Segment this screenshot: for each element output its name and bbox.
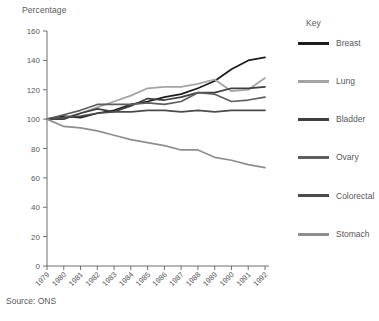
legend-swatch-icon: [298, 118, 329, 121]
x-tick-label: 1992: [251, 270, 269, 288]
y-tick-label: 100: [27, 115, 41, 124]
y-tick-label: 60: [31, 174, 40, 183]
legend-item-label: Stomach: [336, 230, 370, 239]
legend-item-bladder[interactable]: Bladder: [298, 113, 365, 125]
x-tick-label: 1982: [84, 270, 102, 288]
x-tick-label: 1985: [134, 270, 152, 288]
legend-swatch-icon: [298, 233, 329, 236]
x-tick-label: 1986: [151, 270, 169, 288]
legend-item-label: Colorectal: [336, 192, 374, 201]
legend-swatch-icon: [298, 156, 329, 159]
y-tick-label: 80: [31, 145, 40, 154]
x-tick-label: 1979: [33, 270, 51, 288]
legend-item-label: Lung: [336, 77, 355, 86]
y-axis-tick-labels: 020406080100120140160: [27, 27, 41, 271]
x-tick-label: 1990: [218, 270, 236, 288]
x-tick-label: 1987: [167, 270, 185, 288]
source-note: Source: ONS: [6, 296, 56, 306]
y-tick-label: 160: [27, 27, 41, 36]
x-tick-label: 1988: [184, 270, 202, 288]
legend-swatch-icon: [298, 194, 329, 197]
x-tick-label: 1984: [117, 270, 135, 288]
legend-swatch-icon: [298, 80, 329, 83]
x-tick-label: 1981: [67, 270, 85, 288]
chart-series-group: [47, 57, 265, 167]
chart-root: Percentage 19791980198119821983198419851…: [0, 0, 379, 321]
legend-item-colorectal[interactable]: Colorectal: [298, 190, 374, 202]
y-tick-label: 0: [36, 262, 41, 271]
y-tick-label: 120: [27, 86, 41, 95]
legend-item-label: Bladder: [336, 115, 365, 124]
x-axis-tick-labels: 1979198019811982198319841985198619871988…: [33, 270, 269, 288]
legend-item-breast[interactable]: Breast: [298, 37, 361, 49]
x-tick-label: 1989: [201, 270, 219, 288]
series-line-stomach: [47, 119, 265, 167]
legend-item-label: Ovary: [336, 153, 359, 162]
y-tick-label: 140: [27, 56, 41, 65]
x-tick-label: 1980: [50, 270, 68, 288]
legend-item-stomach[interactable]: Stomach: [298, 228, 370, 240]
legend-swatch-icon: [298, 42, 329, 45]
legend-title: Key: [306, 18, 321, 28]
y-tick-label: 20: [31, 233, 40, 242]
x-tick-label: 1983: [100, 270, 118, 288]
y-tick-label: 40: [31, 203, 40, 212]
legend-item-lung[interactable]: Lung: [298, 75, 355, 87]
legend-item-ovary[interactable]: Ovary: [298, 152, 359, 164]
series-line-ovary: [47, 93, 265, 119]
legend-item-label: Breast: [336, 39, 361, 48]
x-tick-label: 1991: [234, 270, 252, 288]
